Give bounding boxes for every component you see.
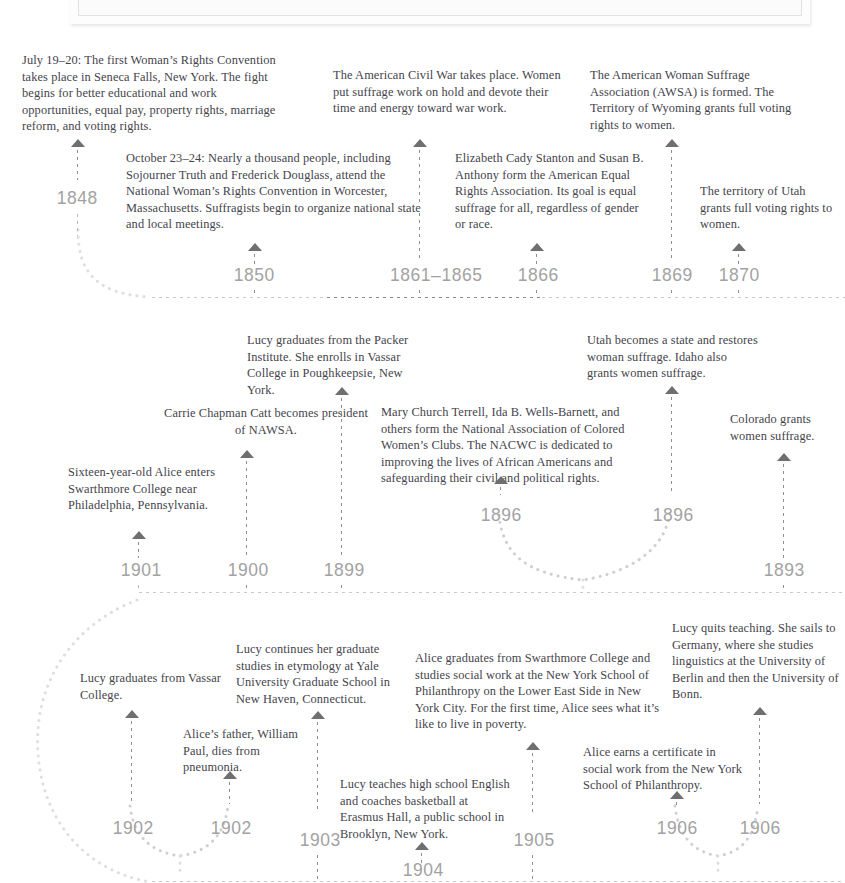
year-label: 1896 bbox=[653, 505, 694, 524]
marker-stem bbox=[531, 853, 534, 880]
marker-arrow-icon bbox=[223, 771, 237, 779]
marker-stem bbox=[737, 252, 740, 264]
marker-arrow-icon bbox=[777, 453, 791, 461]
rail-row2 bbox=[137, 591, 845, 594]
marker-arrow-icon bbox=[240, 450, 254, 458]
year-label: 1901 bbox=[121, 560, 162, 579]
event-caption: The territory of Utah grants full voting… bbox=[700, 183, 835, 233]
marker-arrow-icon bbox=[665, 386, 679, 394]
year-label: 1861–1865 bbox=[390, 265, 482, 284]
marker-stem bbox=[782, 583, 785, 592]
year-label: 1869 bbox=[652, 265, 693, 284]
event-caption: Elizabeth Cady Stanton and Susan B. Anth… bbox=[455, 150, 650, 233]
year-label: 1904 bbox=[403, 860, 444, 879]
marker-arrow-icon bbox=[526, 742, 540, 750]
year-label: 1905 bbox=[514, 830, 555, 849]
photo-frame-inner-border bbox=[78, 0, 802, 16]
marker-stem bbox=[316, 853, 319, 880]
event-caption: Lucy continues her graduate studies in e… bbox=[236, 641, 396, 707]
marker-arrow-icon bbox=[71, 139, 85, 147]
marker-stem bbox=[418, 288, 421, 297]
event-caption: The American Woman Suffrage Association … bbox=[590, 67, 795, 133]
marker-arrow-icon bbox=[248, 243, 262, 251]
marker-stem bbox=[130, 719, 133, 804]
year-label: 1906 bbox=[740, 818, 781, 837]
rail-row1-b bbox=[540, 296, 845, 299]
timeline-page: July 19–20: The first Woman’s Rights Con… bbox=[0, 0, 845, 883]
year-label: 1902 bbox=[113, 818, 154, 837]
year-label: 1870 bbox=[719, 265, 760, 284]
marker-stem bbox=[253, 288, 256, 297]
marker-arrow-icon bbox=[415, 842, 429, 850]
year-label: 1902 bbox=[211, 818, 252, 837]
marker-stem bbox=[340, 396, 343, 558]
rail-row1-civil-war-span bbox=[325, 296, 540, 299]
marker-arrow-icon bbox=[665, 139, 679, 147]
marker-stem bbox=[782, 462, 785, 558]
marker-arrow-icon bbox=[732, 243, 746, 251]
marker-arrow-icon bbox=[335, 387, 349, 395]
year-label: 1848 bbox=[57, 188, 98, 207]
marker-stem bbox=[137, 583, 140, 592]
marker-stem bbox=[675, 800, 678, 808]
marker-stem bbox=[535, 252, 538, 264]
marker-stem bbox=[499, 485, 502, 495]
marker-stem bbox=[137, 540, 140, 558]
marker-stem bbox=[253, 252, 256, 264]
event-caption: Colorado grants women suffrage. bbox=[730, 411, 845, 444]
event-caption: Alice’s father, William Paul, dies from … bbox=[183, 726, 308, 776]
marker-stem bbox=[418, 148, 421, 260]
year-label: 1866 bbox=[518, 265, 559, 284]
event-caption: Lucy teaches high school English and coa… bbox=[340, 776, 512, 842]
year-label: 1906 bbox=[657, 818, 698, 837]
event-caption: Alice graduates from Swarthmore College … bbox=[415, 650, 660, 733]
marker-stem bbox=[737, 288, 740, 297]
year-label: 1899 bbox=[324, 560, 365, 579]
marker-stem bbox=[76, 148, 79, 180]
marker-arrow-icon bbox=[311, 711, 325, 719]
rail-row1-a bbox=[150, 296, 325, 299]
marker-stem bbox=[245, 459, 248, 558]
year-label: 1850 bbox=[234, 265, 275, 284]
marker-stem bbox=[76, 212, 79, 236]
cropped-photo-frame bbox=[70, 0, 810, 24]
event-caption: October 23–24: Nearly a thousand people,… bbox=[126, 150, 424, 233]
marker-stem bbox=[531, 751, 534, 812]
marker-arrow-icon bbox=[494, 476, 508, 484]
year-label: 1893 bbox=[764, 560, 805, 579]
marker-stem bbox=[670, 395, 673, 493]
marker-arrow-icon bbox=[125, 710, 139, 718]
year-label: 1896 bbox=[481, 505, 522, 524]
connector-row2-to-row3 bbox=[38, 600, 150, 882]
event-caption: Sixteen-year-old Alice enters Swarthmore… bbox=[68, 464, 216, 514]
event-caption: Alice earns a certificate in social work… bbox=[583, 744, 748, 794]
marker-stem bbox=[245, 583, 248, 592]
marker-arrow-icon bbox=[132, 531, 146, 539]
marker-stem bbox=[670, 288, 673, 297]
event-caption: Utah becomes a state and restores woman … bbox=[587, 332, 759, 382]
connector-row2-1896-branch bbox=[499, 512, 670, 580]
marker-stem bbox=[228, 780, 231, 804]
marker-arrow-icon bbox=[530, 243, 544, 251]
connector-row1-start bbox=[78, 230, 150, 297]
marker-stem bbox=[535, 288, 538, 297]
event-caption: Lucy quits teaching. She sails to German… bbox=[672, 620, 840, 703]
marker-arrow-icon bbox=[670, 791, 684, 799]
marker-arrow-icon bbox=[413, 139, 427, 147]
marker-stem bbox=[340, 583, 343, 592]
year-label: 1903 bbox=[300, 830, 341, 849]
marker-stem bbox=[316, 720, 319, 812]
event-caption: July 19–20: The first Woman’s Rights Con… bbox=[22, 52, 282, 135]
year-label: 1900 bbox=[228, 560, 269, 579]
event-caption: The American Civil War takes place. Wome… bbox=[333, 67, 563, 117]
marker-stem bbox=[758, 716, 761, 804]
marker-arrow-icon bbox=[753, 707, 767, 715]
marker-stem bbox=[670, 148, 673, 260]
event-caption: Lucy graduates from Vassar College. bbox=[80, 670, 230, 703]
event-caption: Mary Church Terrell, Ida B. Wells-Barnet… bbox=[381, 404, 646, 487]
